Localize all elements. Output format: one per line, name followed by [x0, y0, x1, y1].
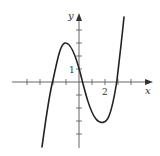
y-axis [76, 13, 82, 148]
x-axis-label: x [145, 85, 151, 96]
x-tick-label-2: 2 [102, 87, 108, 97]
y-axis-label: y [67, 10, 74, 21]
y-axis-arrow-icon [76, 13, 82, 21]
y-tick-label-1: 1 [69, 65, 75, 75]
function-graph: y x 1 2 [0, 0, 160, 156]
